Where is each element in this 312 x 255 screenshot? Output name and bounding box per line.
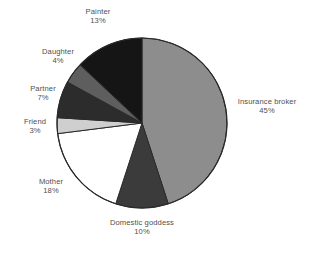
- pie-label-partner: Partner 7%: [12, 85, 74, 103]
- pie-chart: Painter 13% Daughter 4% Partner 7% Frien…: [0, 0, 312, 255]
- pie-label-mother: Mother 18%: [20, 178, 82, 196]
- pie-label-daughter-value: 4%: [22, 57, 94, 66]
- pie-label-painter-value: 13%: [63, 17, 133, 26]
- pie-label-painter: Painter 13%: [63, 8, 133, 26]
- pie-label-insurance-broker: Insurance broker 45%: [224, 98, 310, 116]
- pie-label-domestic-goddess: Domestic goddess 10%: [92, 219, 192, 237]
- pie-label-partner-value: 7%: [12, 94, 74, 103]
- pie-label-friend-value: 3%: [6, 127, 64, 136]
- pie-label-mother-value: 18%: [20, 187, 82, 196]
- pie-label-domestic-goddess-value: 10%: [92, 228, 192, 237]
- pie-label-friend: Friend 3%: [6, 118, 64, 136]
- pie-label-daughter: Daughter 4%: [22, 48, 94, 66]
- pie-label-insurance-broker-value: 45%: [224, 107, 310, 116]
